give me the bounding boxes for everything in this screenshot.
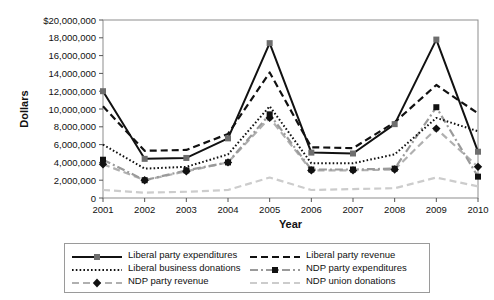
series-marker bbox=[267, 40, 273, 46]
series-marker bbox=[308, 167, 314, 173]
legend-label: NDP union donations bbox=[306, 275, 396, 287]
series-marker bbox=[392, 166, 398, 172]
legend-swatch bbox=[71, 262, 123, 274]
legend-label: Liberal party expenditures bbox=[128, 249, 237, 261]
series-marker bbox=[267, 111, 273, 117]
series-marker bbox=[392, 121, 398, 127]
x-axis-title: Year bbox=[279, 218, 303, 230]
series-marker bbox=[183, 167, 189, 173]
legend-swatch bbox=[249, 249, 301, 261]
x-axis-tick-label: 2008 bbox=[384, 204, 405, 215]
y-axis-tick-label: 10,000,000 bbox=[48, 104, 96, 115]
series-marker bbox=[433, 37, 439, 43]
chart-legend: Liberal party expendituresLiberal party … bbox=[64, 243, 430, 293]
legend-swatch bbox=[249, 262, 301, 274]
series-marker bbox=[100, 157, 106, 163]
x-axis-tick-label: 2007 bbox=[342, 204, 363, 215]
y-axis-tick-label: 14,000,000 bbox=[48, 68, 96, 79]
legend-item[interactable]: Liberal business donations bbox=[71, 262, 245, 274]
chart-figure: 02,000,0004,000,0006,000,0008,000,00010,… bbox=[0, 0, 494, 300]
series-line bbox=[103, 178, 478, 193]
series-marker bbox=[433, 104, 439, 110]
y-axis-tick-label: 18,000,000 bbox=[48, 32, 96, 43]
y-axis-title: Dollars bbox=[18, 90, 30, 127]
legend-swatch bbox=[71, 249, 123, 261]
series-marker bbox=[350, 151, 356, 157]
series-marker bbox=[475, 174, 481, 180]
x-axis-tick-label: 2009 bbox=[426, 204, 447, 215]
legend-label: NDP party expenditures bbox=[306, 262, 407, 274]
series-marker bbox=[350, 167, 356, 173]
y-axis-tick-label: 6,000,000 bbox=[54, 139, 96, 150]
series-marker bbox=[308, 150, 314, 156]
y-axis-tick-label: 16,000,000 bbox=[48, 50, 96, 61]
y-axis-tick-label: 0 bbox=[91, 193, 96, 204]
series-marker bbox=[142, 156, 148, 162]
legend-label: Liberal party revenue bbox=[306, 249, 395, 261]
x-axis-tick-label: 2003 bbox=[176, 204, 197, 215]
x-axis-tick-label: 2004 bbox=[217, 204, 238, 215]
y-axis-tick-label: 2,000,000 bbox=[54, 175, 96, 186]
series-marker bbox=[142, 177, 148, 183]
legend-item[interactable]: NDP party expenditures bbox=[249, 262, 423, 274]
legend-item[interactable]: Liberal party revenue bbox=[249, 249, 423, 261]
x-axis-tick-label: 2001 bbox=[92, 204, 113, 215]
y-axis-tick-label: 12,000,000 bbox=[48, 86, 96, 97]
series-line bbox=[103, 118, 478, 180]
series-line bbox=[103, 73, 478, 151]
y-axis-tick-label: 4,000,000 bbox=[54, 157, 96, 168]
plot-frame bbox=[103, 20, 478, 198]
series-marker bbox=[225, 135, 231, 141]
y-axis-tick-label: 8,000,000 bbox=[54, 121, 96, 132]
legend-label: NDP party revenue bbox=[128, 275, 209, 287]
series-marker bbox=[225, 159, 231, 165]
legend-label: Liberal business donations bbox=[128, 262, 241, 274]
series-marker bbox=[183, 155, 189, 161]
x-axis-tick-label: 2002 bbox=[134, 204, 155, 215]
x-axis-tick-label: 2006 bbox=[301, 204, 322, 215]
series-marker bbox=[475, 149, 481, 155]
x-axis-tick-label: 2010 bbox=[467, 204, 488, 215]
x-axis-tick-label: 2005 bbox=[259, 204, 280, 215]
legend-swatch bbox=[71, 275, 123, 287]
legend-item[interactable]: Liberal party expenditures bbox=[71, 249, 245, 261]
legend-swatch bbox=[249, 275, 301, 287]
series-marker bbox=[432, 124, 440, 132]
series-marker bbox=[100, 88, 106, 94]
y-axis-tick-label: $20,000,000 bbox=[43, 15, 96, 26]
legend-item[interactable]: NDP union donations bbox=[249, 275, 423, 287]
legend-item[interactable]: NDP party revenue bbox=[71, 275, 245, 287]
